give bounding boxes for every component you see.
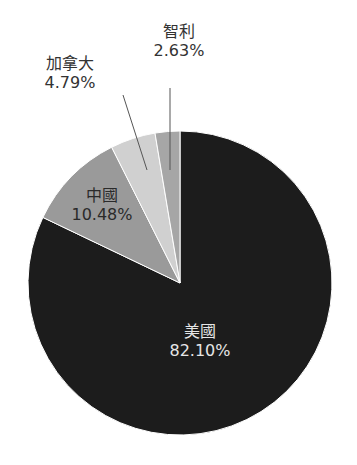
label-china-pct: 10.48% [62, 205, 142, 224]
label-china-name: 中國 [62, 186, 142, 205]
label-usa: 美國 82.10% [160, 322, 240, 360]
pie-slices [28, 131, 332, 435]
label-canada-name: 加拿大 [28, 54, 112, 73]
label-canada: 加拿大 4.79% [28, 54, 112, 92]
label-chile: 智利 2.63% [143, 22, 215, 60]
label-usa-pct: 82.10% [160, 341, 240, 360]
label-chile-pct: 2.63% [143, 41, 215, 60]
label-usa-name: 美國 [160, 322, 240, 341]
label-chile-name: 智利 [143, 22, 215, 41]
label-canada-pct: 4.79% [28, 73, 112, 92]
label-china: 中國 10.48% [62, 186, 142, 224]
